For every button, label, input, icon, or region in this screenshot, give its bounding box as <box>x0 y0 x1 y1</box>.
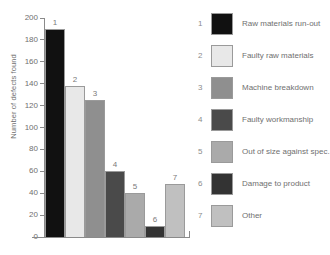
x-axis-line <box>32 237 190 238</box>
x-axis-end-tick <box>189 231 190 238</box>
y-axis-ticks: 020406080100120140160180200 <box>0 0 44 255</box>
legend-item-label: Other <box>242 212 262 220</box>
legend-item-2[interactable]: 2Faulty raw materials <box>198 42 314 70</box>
bar-value-label: 1 <box>45 19 65 27</box>
legend-swatch-icon <box>211 205 233 227</box>
legend: 1Raw materials run-out2Faulty raw materi… <box>192 0 322 255</box>
bar-value-label: 6 <box>145 216 165 224</box>
bar-value-label: 2 <box>65 76 85 84</box>
chart-plot-area: Number of defects found 0204060801001201… <box>0 0 192 255</box>
bar-group[interactable]: 3 <box>85 18 105 237</box>
legend-item-label: Faulty raw materials <box>242 52 314 60</box>
y-tick-label: 160 <box>25 57 40 65</box>
legend-swatch-icon <box>211 77 233 99</box>
legend-swatch-icon <box>211 13 233 35</box>
legend-item-6[interactable]: 6Damage to product <box>198 170 310 198</box>
legend-item-key: 5 <box>198 148 211 156</box>
legend-item-label: Damage to product <box>242 180 310 188</box>
bar-3[interactable] <box>85 100 105 237</box>
legend-item-1[interactable]: 1Raw materials run-out <box>198 10 320 38</box>
legend-item-key: 1 <box>198 20 211 28</box>
y-tick-label: 100 <box>25 123 40 131</box>
bar-5[interactable] <box>125 193 145 237</box>
bar-group[interactable]: 2 <box>65 18 85 237</box>
legend-item-label: Machine breakdown <box>242 84 314 92</box>
bar-group[interactable]: 7 <box>165 18 185 237</box>
bar-6[interactable] <box>145 226 165 237</box>
y-tick-label: 140 <box>25 79 40 87</box>
legend-item-label: Faulty workmanship <box>242 116 313 124</box>
y-tick-label: 120 <box>25 101 40 109</box>
bar-group[interactable]: 4 <box>105 18 125 237</box>
bars-container: 1234567 <box>45 18 185 237</box>
legend-item-label: Raw materials run-out <box>242 20 320 28</box>
legend-swatch-icon <box>211 45 233 67</box>
y-tick-label: 200 <box>25 14 40 22</box>
legend-item-5[interactable]: 5Out of size against spec. <box>198 138 330 166</box>
legend-swatch-icon <box>211 109 233 131</box>
bar-group[interactable]: 1 <box>45 18 65 237</box>
legend-swatch-icon <box>211 141 233 163</box>
y-tick-label: 60 <box>29 167 40 175</box>
bar-2[interactable] <box>65 86 85 237</box>
bar-value-label: 7 <box>165 174 185 182</box>
bar-7[interactable] <box>165 184 185 237</box>
legend-item-7[interactable]: 7Other <box>198 202 262 230</box>
bar-value-label: 5 <box>125 183 145 191</box>
y-tick-label: 40 <box>29 189 40 197</box>
legend-item-key: 2 <box>198 52 211 60</box>
bar-4[interactable] <box>105 171 125 237</box>
legend-item-key: 4 <box>198 116 211 124</box>
bar-group[interactable]: 5 <box>125 18 145 237</box>
legend-item-key: 7 <box>198 212 211 220</box>
y-tick-label: 20 <box>29 211 40 219</box>
legend-item-key: 6 <box>198 180 211 188</box>
bar-value-label: 3 <box>85 90 105 98</box>
legend-item-key: 3 <box>198 84 211 92</box>
legend-item-3[interactable]: 3Machine breakdown <box>198 74 314 102</box>
y-tick-label: 180 <box>25 35 40 43</box>
legend-swatch-icon <box>211 173 233 195</box>
bar-1[interactable] <box>45 29 65 237</box>
bar-group[interactable]: 6 <box>145 18 165 237</box>
legend-item-label: Out of size against spec. <box>242 148 330 156</box>
legend-item-4[interactable]: 4Faulty workmanship <box>198 106 313 134</box>
bar-value-label: 4 <box>105 161 125 169</box>
y-tick-label: 80 <box>29 145 40 153</box>
